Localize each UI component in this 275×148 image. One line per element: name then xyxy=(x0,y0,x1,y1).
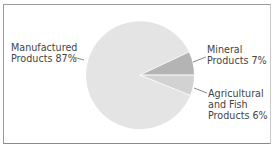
label-manufactured-line1: Manufactured xyxy=(11,42,77,53)
label-manufactured-line2: Products 87% xyxy=(11,53,77,64)
label-agricultural-line1: Agricultural xyxy=(208,88,268,99)
label-agricultural-line2: and Fish xyxy=(208,99,268,110)
label-mineral-line1: Mineral xyxy=(207,44,267,55)
label-mineral-line2: Products 7% xyxy=(207,55,267,66)
label-manufactured: Manufactured Products 87% xyxy=(11,42,77,64)
label-agricultural: Agricultural and Fish Products 6% xyxy=(208,88,268,121)
leader-agricultural xyxy=(194,88,207,93)
label-agricultural-line3: Products 6% xyxy=(208,110,268,121)
pie-chart xyxy=(0,0,275,148)
leader-mineral xyxy=(193,57,206,62)
label-mineral: Mineral Products 7% xyxy=(207,44,267,66)
